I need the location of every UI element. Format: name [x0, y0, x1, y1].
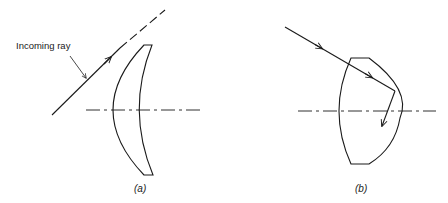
incoming-ray-label: Incoming ray [16, 40, 71, 51]
panel-b: (b) [285, 27, 436, 194]
caption-a: (a) [134, 183, 146, 194]
panel-a: Incoming ray (a) [16, 10, 204, 194]
leader-arrow-icon [70, 56, 86, 78]
incident-ray [285, 27, 395, 91]
ray-extension-dashed [120, 10, 165, 48]
reflected-ray [382, 91, 395, 126]
ray-arrow-icon [104, 57, 111, 64]
ray-arrow-icon-2 [365, 74, 372, 78]
optics-figure: Incoming ray (a) (b) [0, 0, 448, 203]
caption-b: (b) [355, 183, 367, 194]
ray-arrow-icon-1 [315, 45, 322, 49]
figure-canvas: Incoming ray (a) (b) [0, 0, 448, 203]
